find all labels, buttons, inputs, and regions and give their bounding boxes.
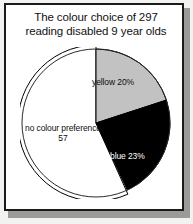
pie-chart: yellow 20% blue 23% no colour preference… [6,5,186,213]
figure-frame: The colour choice of 297 reading disable… [4,3,184,211]
pie-label-no-colour-preference: no colour preference 57 [20,123,106,143]
pie-label-no-colour-preference-value: 57 [20,133,106,143]
pie-label-yellow: yellow 20% [92,77,134,87]
pie-label-no-colour-preference-name: no colour preference [25,123,101,133]
pie-label-blue: blue 23% [110,151,145,161]
chart-image: The colour choice of 297 reading disable… [0,0,193,224]
